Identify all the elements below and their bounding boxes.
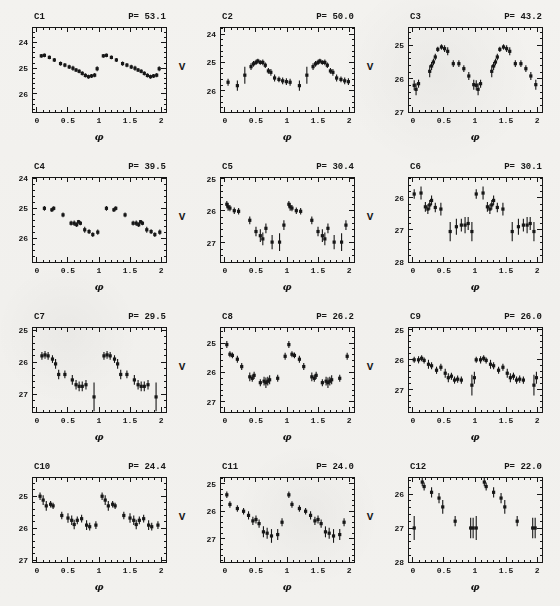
data-point bbox=[121, 62, 124, 65]
data-point bbox=[503, 505, 506, 508]
light-curve-chart-C7: C7P= 29.500.511.52252627φ bbox=[2, 305, 174, 455]
data-point bbox=[490, 203, 493, 206]
data-point bbox=[287, 493, 290, 496]
y-tick-label: 25 bbox=[18, 326, 28, 335]
period-label: P= 30.1 bbox=[504, 162, 542, 172]
data-points bbox=[43, 206, 162, 237]
data-point bbox=[440, 45, 443, 48]
data-point bbox=[321, 381, 324, 384]
y-tick-label: 26 bbox=[18, 90, 28, 99]
data-point bbox=[413, 526, 416, 529]
data-point bbox=[75, 223, 78, 226]
data-point bbox=[515, 378, 518, 381]
x-tick-label: 1 bbox=[97, 266, 102, 275]
y-tick-label: 28 bbox=[394, 258, 404, 267]
data-point bbox=[57, 373, 60, 376]
data-point bbox=[522, 224, 525, 227]
x-tick-label: 0.5 bbox=[249, 266, 264, 275]
data-point bbox=[417, 82, 420, 85]
x-tick-label: 1 bbox=[285, 266, 290, 275]
data-point bbox=[266, 532, 269, 535]
data-point bbox=[273, 76, 276, 79]
x-tick-label: 0 bbox=[35, 266, 40, 275]
y-tick-label: 26 bbox=[206, 368, 216, 377]
data-points bbox=[225, 341, 349, 388]
data-point bbox=[462, 67, 465, 70]
x-tick-label: 0.5 bbox=[61, 116, 76, 125]
y-tick-label: 26 bbox=[18, 234, 28, 243]
x-tick-label: 1 bbox=[285, 116, 290, 125]
axis-box bbox=[408, 177, 542, 262]
x-tick-label: 0 bbox=[411, 116, 416, 125]
data-point bbox=[326, 227, 329, 230]
light-curve-chart-C12: C12P= 22.000.511.52262728φ bbox=[378, 455, 550, 605]
data-point bbox=[285, 80, 288, 83]
data-point bbox=[282, 224, 285, 227]
y-tick-label: 26 bbox=[206, 507, 216, 516]
x-tick-label: 0 bbox=[411, 416, 416, 425]
data-point bbox=[435, 369, 438, 372]
data-point bbox=[506, 372, 509, 375]
data-point bbox=[434, 206, 437, 209]
data-point bbox=[430, 199, 433, 202]
data-points bbox=[225, 201, 347, 251]
data-point bbox=[74, 383, 77, 386]
data-point bbox=[63, 373, 66, 376]
data-point bbox=[532, 230, 535, 233]
data-point bbox=[413, 192, 416, 195]
period-label: P= 24.4 bbox=[128, 462, 166, 472]
period-label: P= 39.5 bbox=[128, 162, 166, 172]
y-axis-label-V: V bbox=[174, 155, 190, 305]
x-tick-label: 1.5 bbox=[311, 116, 326, 125]
data-point bbox=[444, 372, 447, 375]
data-point bbox=[249, 65, 252, 68]
light-curve-chart-C10: C10P= 24.400.511.52252627φ bbox=[2, 455, 174, 605]
light-curve-chart-C8: C8P= 26.200.511.52252627φ bbox=[190, 305, 362, 455]
data-point bbox=[105, 207, 108, 210]
data-point bbox=[450, 375, 453, 378]
data-point bbox=[276, 533, 279, 536]
data-point bbox=[80, 517, 83, 520]
data-point bbox=[101, 495, 104, 498]
data-point bbox=[342, 521, 345, 524]
x-axis-label-phi: φ bbox=[94, 131, 103, 142]
x-axis-label-phi: φ bbox=[282, 281, 291, 292]
data-point bbox=[130, 65, 133, 68]
data-point bbox=[96, 231, 99, 234]
axis-box bbox=[220, 477, 354, 562]
y-axis-label-V: V bbox=[362, 305, 378, 455]
y-axis-label-V: V bbox=[174, 5, 190, 155]
x-axis-label-phi: φ bbox=[282, 431, 291, 442]
data-point bbox=[492, 491, 495, 494]
period-label: P= 50.0 bbox=[316, 12, 354, 22]
data-point bbox=[123, 213, 126, 216]
data-point bbox=[125, 64, 128, 67]
data-point bbox=[304, 510, 307, 513]
x-tick-label: 1.5 bbox=[311, 266, 326, 275]
data-point bbox=[316, 230, 319, 233]
data-point bbox=[83, 228, 86, 231]
light-curve-chart-C6: C6P= 30.100.511.52262728φ bbox=[378, 155, 550, 305]
data-point bbox=[295, 209, 298, 212]
x-tick-label: 1.5 bbox=[499, 266, 514, 275]
data-point bbox=[225, 343, 228, 346]
data-point bbox=[81, 72, 84, 75]
panel-C6: C6P= 30.100.511.52262728φ bbox=[378, 155, 550, 305]
x-axis-label-phi: φ bbox=[470, 131, 479, 142]
data-point bbox=[455, 225, 458, 228]
x-tick-label: 1.5 bbox=[499, 416, 514, 425]
x-tick-label: 0.5 bbox=[249, 566, 264, 575]
panel-C10: C10P= 24.400.511.52252627φ bbox=[2, 455, 174, 605]
axis-box bbox=[220, 177, 354, 262]
data-point bbox=[115, 58, 118, 61]
data-point bbox=[102, 54, 105, 57]
data-point bbox=[339, 78, 342, 81]
data-point bbox=[534, 526, 537, 529]
data-point bbox=[470, 384, 473, 387]
x-axis-label-phi: φ bbox=[94, 281, 103, 292]
x-tick-label: 0.5 bbox=[61, 566, 76, 575]
data-point bbox=[240, 365, 243, 368]
data-point bbox=[96, 67, 99, 70]
data-point bbox=[116, 362, 119, 365]
data-point bbox=[68, 65, 71, 68]
